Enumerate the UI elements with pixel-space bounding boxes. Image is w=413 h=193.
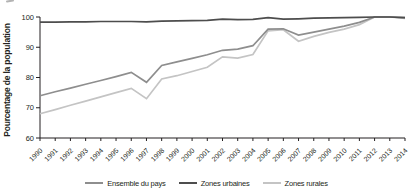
x-tick-label: 1997 [134, 147, 150, 163]
legend-item-ensemble-du-pays: Ensemble du pays [85, 179, 166, 188]
legend-line-swatch [179, 182, 197, 184]
x-tick-label: 2005 [256, 147, 272, 163]
x-tick-label: 1991 [43, 147, 59, 163]
x-tick-label: 2006 [271, 147, 287, 163]
x-tick-label: 2000 [180, 147, 196, 163]
legend-label: Zones rurales [285, 179, 328, 188]
x-tick-label: 2002 [210, 147, 226, 163]
legend-label: Zones urbaines [201, 179, 250, 188]
x-tick-label: 2008 [301, 147, 317, 163]
x-tick-label: 1993 [73, 147, 89, 163]
x-tick-label: 2013 [378, 147, 394, 163]
x-tick-label: 2003 [225, 147, 241, 163]
legend-item-zones-rurales: Zones rurales [263, 179, 328, 188]
legend: Ensemble du paysZones urbainesZones rura… [0, 176, 413, 190]
legend-line-swatch [85, 182, 103, 184]
series-zones-urbaines [40, 17, 405, 22]
x-tick-label: 2001 [195, 147, 211, 163]
legend-item-zones-urbaines: Zones urbaines [179, 179, 250, 188]
x-tick-label: 1994 [89, 147, 105, 163]
x-tick-label: 2014 [393, 147, 409, 163]
line-chart-figure: Pourcentage de la population 60708090100… [0, 0, 413, 193]
x-tick-label: 1999 [165, 147, 181, 163]
x-tick-label: 2004 [241, 147, 257, 163]
y-tick-label: 90 [26, 43, 34, 52]
x-tick-label: 2007 [286, 147, 302, 163]
x-tick-label: 1990 [28, 147, 44, 163]
y-tick-label: 80 [26, 73, 34, 82]
x-tick-label: 1992 [58, 147, 74, 163]
x-tick-label: 1996 [119, 147, 135, 163]
x-tick-label: 2012 [362, 147, 378, 163]
axes [40, 17, 405, 138]
x-tick-label: 1995 [104, 147, 120, 163]
x-tick-label: 2009 [317, 147, 333, 163]
x-tick-label: 1998 [149, 147, 165, 163]
series-zones-rurales [40, 17, 405, 114]
y-tick-label: 60 [26, 134, 34, 143]
x-tick-label: 2010 [332, 147, 348, 163]
legend-line-swatch [263, 182, 281, 184]
x-tick-label: 2011 [347, 147, 363, 163]
y-tick-label: 100 [21, 13, 34, 22]
plot-area: 6070809010019901991199219931994199519961… [0, 0, 413, 193]
legend-label: Ensemble du pays [107, 179, 166, 188]
y-tick-label: 70 [26, 103, 34, 112]
